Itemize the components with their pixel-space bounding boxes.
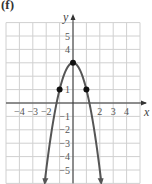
y-tick-label: −2 xyxy=(59,124,70,135)
x-tick-label: −3 xyxy=(27,106,38,117)
y-tick-label: 1 xyxy=(65,84,70,95)
parabola-chart: xy −4−3−2234541−1−2−3−4−5 xyxy=(0,0,152,184)
y-axis-arrow-icon xyxy=(71,14,76,20)
y-tick-label: −1 xyxy=(59,111,70,122)
point-marker xyxy=(83,87,89,93)
point-marker xyxy=(57,87,63,93)
y-tick-label: −5 xyxy=(59,165,70,176)
y-axis-label: y xyxy=(62,10,69,24)
x-tick-label: −2 xyxy=(41,106,52,117)
x-tick-label: −4 xyxy=(14,106,25,117)
x-tick-label: 4 xyxy=(124,106,129,117)
x-tick-label: 3 xyxy=(111,106,116,117)
x-axis-label: x xyxy=(143,105,150,119)
point-marker xyxy=(70,60,76,66)
y-tick-label: 5 xyxy=(65,31,70,42)
y-tick-label: −4 xyxy=(59,151,70,162)
y-tick-label: −3 xyxy=(59,138,70,149)
x-tick-label: 2 xyxy=(97,106,102,117)
y-tick-label: 4 xyxy=(65,44,70,55)
